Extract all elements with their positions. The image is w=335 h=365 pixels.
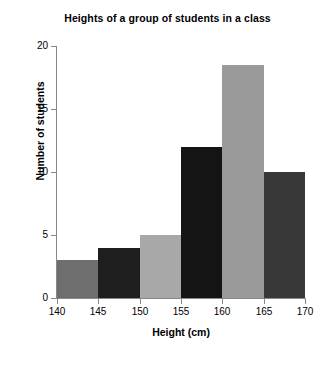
y-tick-label: 5 — [8, 230, 48, 240]
y-tick-mark — [51, 172, 56, 173]
plot-area — [57, 46, 305, 298]
x-tick-label: 150 — [120, 307, 160, 317]
x-tick-mark — [57, 299, 58, 304]
x-tick-mark — [181, 299, 182, 304]
x-tick-mark — [222, 299, 223, 304]
y-tick-label: 15 — [8, 104, 48, 114]
histogram-bar — [181, 147, 222, 298]
y-tick-label: 0 — [8, 293, 48, 303]
y-tick-mark — [51, 109, 56, 110]
y-tick-mark — [51, 298, 56, 299]
x-axis-title: Height (cm) — [57, 326, 305, 338]
chart-title: Heights of a group of students in a clas… — [0, 12, 335, 24]
x-tick-label: 165 — [244, 307, 284, 317]
histogram-bar — [57, 260, 98, 298]
y-axis-title: Number of students — [34, 31, 46, 231]
x-tick-label: 140 — [37, 307, 77, 317]
histogram-bar — [140, 235, 181, 298]
x-tick-label: 155 — [161, 307, 201, 317]
y-tick-mark — [51, 235, 56, 236]
histogram-bar — [98, 248, 139, 298]
histogram-bar — [264, 172, 305, 298]
x-tick-label: 170 — [285, 307, 325, 317]
y-tick-label: 10 — [8, 167, 48, 177]
x-tick-mark — [140, 299, 141, 304]
y-tick-mark — [51, 46, 56, 47]
x-tick-mark — [98, 299, 99, 304]
x-tick-mark — [305, 299, 306, 304]
histogram-bar — [222, 65, 263, 298]
x-tick-mark — [264, 299, 265, 304]
x-tick-label: 160 — [202, 307, 242, 317]
histogram-figure: Heights of a group of students in a clas… — [0, 0, 335, 365]
y-tick-label: 20 — [8, 41, 48, 51]
x-tick-label: 145 — [78, 307, 118, 317]
